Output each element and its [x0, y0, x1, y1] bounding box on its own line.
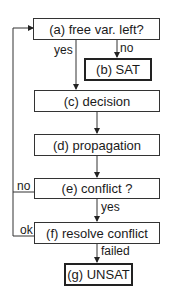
edge-label-failed-f-g: failed: [101, 245, 130, 257]
edge-label-ok-f-a: ok: [20, 224, 33, 236]
node-label: (e) conflict ?: [62, 181, 133, 196]
node-unsat: (g) UNSAT: [64, 263, 133, 286]
node-label: (f) resolve conflict: [46, 226, 148, 241]
node-sat: (b) SAT: [84, 58, 152, 81]
node-label: (c) decision: [64, 94, 130, 109]
node-free-var-left: (a) free var. left?: [33, 18, 160, 40]
edge-label-no-a-b: no: [120, 42, 133, 54]
node-label: (g) UNSAT: [67, 267, 130, 282]
node-conflict: (e) conflict ?: [34, 178, 160, 199]
node-resolve-conflict: (f) resolve conflict: [34, 222, 160, 244]
node-propagation: (d) propagation: [34, 134, 160, 156]
node-decision: (c) decision: [34, 90, 160, 112]
edge-label-yes-a-c: yes: [54, 44, 73, 56]
edge-label-yes-e-f: yes: [101, 201, 120, 213]
edge-label-no-e-a: no: [17, 180, 30, 192]
node-label: (b) SAT: [96, 62, 140, 77]
node-label: (a) free var. left?: [49, 22, 144, 37]
node-label: (d) propagation: [53, 138, 141, 153]
